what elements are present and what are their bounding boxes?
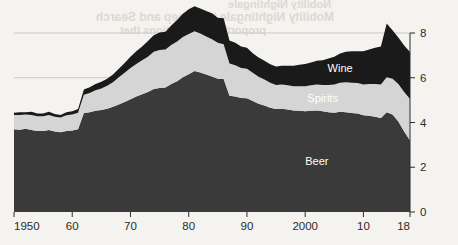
chart-figure: Nobility Nightingale Mobility Nightingal…	[0, 0, 458, 245]
area-series-group	[14, 6, 410, 212]
x-axis-tick-group: 19506070809020001018	[14, 212, 410, 232]
x-axis-tick-label: 90	[241, 220, 254, 232]
y-axis-tick-label: 2	[420, 161, 426, 173]
x-axis-tick-label: 1950	[14, 220, 40, 232]
y-axis-tick-label: 4	[420, 117, 427, 129]
y-axis-tick-label: 8	[420, 27, 426, 39]
x-axis-tick-label: 18	[397, 220, 410, 232]
x-axis-tick-label: 80	[182, 220, 195, 232]
series-label-beer: Beer	[305, 155, 329, 167]
series-label-spirits: Spirits	[307, 92, 338, 104]
y-axis-tick-group: 02468	[410, 27, 427, 218]
stacked-area-chart: 19506070809020001018 02468 BeerSpiritsWi…	[0, 0, 458, 245]
y-axis-tick-label: 6	[420, 72, 426, 84]
x-axis-tick-label: 70	[124, 220, 137, 232]
series-label-wine: Wine	[328, 62, 353, 74]
x-axis-tick-label: 2000	[292, 220, 318, 232]
y-axis-tick-label: 0	[420, 206, 426, 218]
x-axis-tick-label: 10	[357, 220, 370, 232]
x-axis-tick-label: 60	[66, 220, 79, 232]
